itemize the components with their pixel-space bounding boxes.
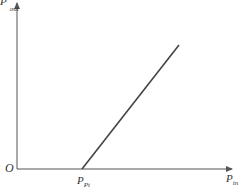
data-line [82, 45, 179, 169]
plot-area [0, 0, 246, 188]
chart: Pout O PPt Pin [0, 0, 246, 188]
y-axis-label: Pout [0, 0, 16, 7]
origin-label: O [5, 162, 14, 174]
x-axis-label: Pin [226, 173, 238, 184]
threshold-label: PPt [77, 175, 90, 186]
